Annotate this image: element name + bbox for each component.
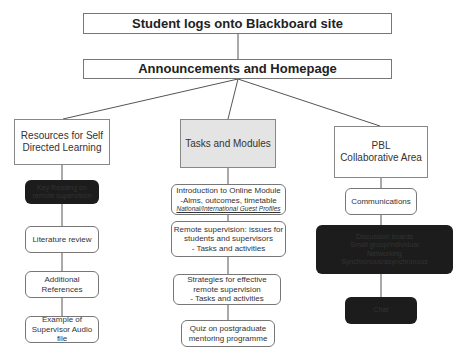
communications-box: Communications [345, 188, 417, 215]
discussion-line2: Small group/individual [350, 241, 418, 249]
remote-issues-line3: - Tasks and activities [192, 244, 266, 254]
key-reading-box: Key Reading on remote supervision [25, 180, 99, 204]
strategies-line3: - Tasks and activities [190, 294, 264, 304]
login-box: Student logs onto Blackboard site [83, 13, 392, 34]
key-reading-line2: remote supervision [32, 192, 91, 200]
pbl-box: PBL Collaborative Area [334, 126, 428, 178]
homepage-label: Announcements and Homepage [138, 61, 337, 77]
discussion-line3: Networking [367, 250, 402, 258]
homepage-box: Announcements and Homepage [83, 59, 392, 79]
guest-profiles-link[interactable]: National/International Guest Profiles [176, 205, 280, 213]
resources-label-line2: Directed Learning [23, 142, 102, 154]
strategies-box: Strategies for effective remote supervis… [173, 274, 281, 305]
literature-review-label: Literature review [32, 235, 91, 245]
quiz-box: Quiz on postgraduate mentoring programme [181, 320, 275, 347]
intro-module-line2: -Aims, outcomes, timetable [180, 196, 276, 206]
strategies-line1: Strategies for effective [187, 275, 266, 285]
intro-module-box: Introduction to Online Module -Aims, out… [171, 184, 286, 215]
strategies-line2: remote supervision [193, 285, 261, 295]
pbl-label-line1: PBL [372, 140, 391, 152]
additional-references-line1: Additional [44, 275, 79, 285]
remote-supervision-issues-box: Remote supervision: issues for students … [171, 221, 286, 257]
remote-issues-line1: Remote supervision: issues for [174, 225, 283, 235]
key-reading-line1: Key Reading on [37, 184, 87, 192]
supervisor-audio-line2: Supervisor Audio file [26, 325, 98, 344]
pbl-label-line2: Collaborative Area [340, 152, 422, 164]
resources-box: Resources for Self Directed Learning [14, 119, 110, 165]
additional-references-line2: References [42, 285, 83, 295]
discussion-line1: Discussion boards [356, 233, 413, 241]
tasks-modules-label: Tasks and Modules [185, 138, 271, 150]
chat-box: Chat [345, 297, 417, 324]
intro-module-line1: Introduction to Online Module [176, 186, 281, 196]
resources-label-line1: Resources for Self [21, 130, 103, 142]
supervisor-audio-box: Example of Supervisor Audio file [25, 316, 99, 343]
additional-references-box: Additional References [25, 271, 99, 298]
discussion-boards-box: Discussion boards Small group/individual… [316, 225, 453, 274]
quiz-line2: mentoring programme [189, 334, 268, 344]
chat-label: Chat [374, 306, 389, 314]
supervisor-audio-line1: Example of [42, 315, 82, 325]
login-label: Student logs onto Blackboard site [132, 16, 343, 32]
discussion-line4: Synchronous/asynchronous [341, 258, 427, 266]
remote-issues-line2: students and supervisors [184, 234, 273, 244]
tasks-modules-box: Tasks and Modules [180, 119, 276, 168]
communications-label: Communications [351, 197, 411, 207]
quiz-line1: Quiz on postgraduate [190, 324, 267, 334]
literature-review-box: Literature review [25, 226, 99, 253]
